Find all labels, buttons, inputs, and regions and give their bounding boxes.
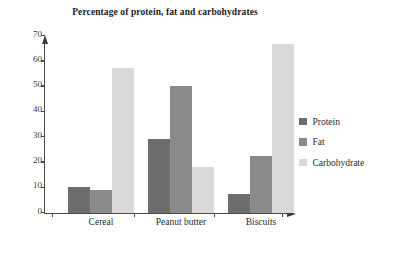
y-axis-tick-label: 60 bbox=[16, 54, 42, 64]
legend-item-label: Carbohydrate bbox=[313, 158, 365, 168]
bars-layer bbox=[44, 31, 296, 214]
legend-color-swatch bbox=[299, 159, 307, 167]
chart-title: Percentage of protein, fat and carbohydr… bbox=[0, 7, 330, 17]
bar bbox=[228, 194, 250, 213]
y-axis-tick-label: 10 bbox=[16, 180, 42, 190]
bar bbox=[68, 187, 90, 212]
y-axis-tick-label: 70 bbox=[16, 29, 42, 39]
bar bbox=[148, 139, 170, 212]
legend-item: Protein bbox=[299, 116, 364, 127]
bar bbox=[90, 190, 112, 213]
legend-item-label: Fat bbox=[313, 137, 325, 147]
legend-item: Fat bbox=[299, 137, 364, 148]
bar bbox=[250, 156, 272, 213]
legend-color-swatch bbox=[299, 138, 307, 146]
x-axis-category-label: Biscuits bbox=[204, 217, 318, 227]
bar bbox=[272, 44, 294, 212]
plot-area: 010203040506070 CerealPeanut butterBiscu… bbox=[44, 31, 296, 214]
chart-legend: ProteinFatCarbohydrate bbox=[299, 116, 364, 178]
bar bbox=[170, 86, 192, 212]
bar bbox=[192, 167, 214, 213]
legend-item-label: Protein bbox=[313, 117, 340, 127]
y-axis-tick-label: 30 bbox=[16, 130, 42, 140]
legend-item: Carbohydrate bbox=[299, 157, 364, 168]
y-axis-tick-label: 0 bbox=[16, 206, 42, 216]
legend-color-swatch bbox=[299, 118, 307, 126]
bar bbox=[112, 68, 134, 212]
y-axis-tick-label: 40 bbox=[16, 104, 42, 114]
y-axis-tick-label: 50 bbox=[16, 79, 42, 89]
y-axis-tick-label: 20 bbox=[16, 155, 42, 165]
bar-chart-figure: Percentage of protein, fat and carbohydr… bbox=[0, 0, 393, 254]
